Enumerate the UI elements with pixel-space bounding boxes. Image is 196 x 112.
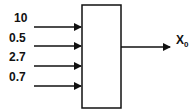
output-label: X0 (176, 33, 189, 49)
input-label-3: 2.7 (9, 50, 26, 64)
diagram-canvas: 10 0.5 2.7 0.7 X0 (0, 0, 196, 112)
input-label-2: 0.5 (9, 31, 26, 45)
function-block (82, 5, 121, 108)
block-diagram: 10 0.5 2.7 0.7 X0 (0, 0, 196, 112)
input-label-1: 10 (14, 11, 28, 25)
input-label-4: 0.7 (9, 70, 26, 84)
